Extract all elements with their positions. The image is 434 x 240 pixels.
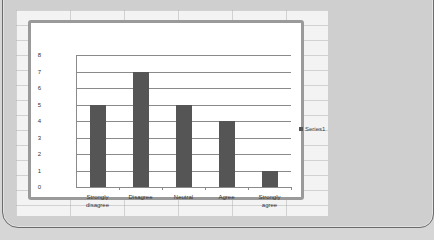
gridline — [76, 72, 291, 73]
gridline — [76, 55, 291, 56]
y-tick-label: 2 — [33, 151, 41, 157]
y-tick-label: 5 — [33, 102, 41, 108]
bar[interactable] — [176, 105, 192, 188]
x-category-label: Agree — [206, 193, 248, 201]
bar[interactable] — [219, 121, 235, 187]
y-tick-label: 4 — [33, 118, 41, 124]
x-category-label: Disagree — [120, 193, 162, 201]
x-tick — [205, 187, 206, 190]
y-tick-label: 1 — [33, 168, 41, 174]
bar[interactable] — [262, 171, 278, 188]
x-category-label: Neutral — [163, 193, 205, 201]
bar[interactable] — [133, 72, 149, 188]
gridline — [76, 187, 291, 188]
legend-swatch — [299, 127, 303, 131]
bar[interactable] — [90, 105, 106, 188]
legend: Series1 — [299, 126, 325, 132]
x-category-label: Strongly disagree — [77, 193, 119, 209]
y-tick-label: 8 — [33, 52, 41, 58]
x-tick — [162, 187, 163, 190]
x-category-label: Strongly agree — [249, 193, 291, 209]
gridline — [76, 88, 291, 89]
legend-label: Series1 — [305, 126, 325, 132]
y-tick-label: 3 — [33, 135, 41, 141]
x-tick — [119, 187, 120, 190]
chart-area[interactable]: 012345678 Strongly disagreeDisagreeNeutr… — [31, 23, 301, 197]
y-tick-label: 6 — [33, 85, 41, 91]
x-tick — [248, 187, 249, 190]
plot-area — [76, 55, 291, 187]
y-tick-label: 0 — [33, 184, 41, 190]
y-tick-label: 7 — [33, 69, 41, 75]
x-tick — [291, 187, 292, 190]
